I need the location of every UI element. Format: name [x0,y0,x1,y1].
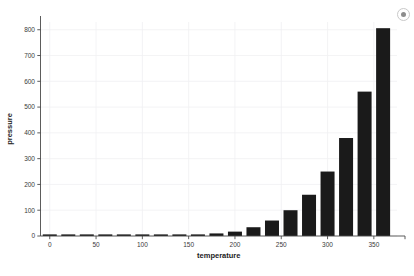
y-tick-label: 100 [24,207,35,214]
y-tick-label: 300 [24,155,35,162]
bar[interactable] [265,221,279,236]
x-tick-label: 100 [137,241,148,248]
x-tick-label: 150 [183,241,194,248]
x-tick-label: 250 [276,241,287,248]
bar[interactable] [302,195,316,236]
x-axis-title: temperature [197,251,240,260]
y-tick-label: 600 [24,78,35,85]
y-tick-labels-group: 0100200300400500600700800 [24,26,35,239]
bar[interactable] [228,232,242,236]
record-dot-icon[interactable] [397,8,410,21]
y-tick-label: 400 [24,129,35,136]
y-tick-label: 0 [31,232,35,239]
x-tick-label: 0 [48,241,52,248]
x-tick-label: 50 [92,241,100,248]
bar-chart-svg[interactable]: 050100150200250300350 010020030040050060… [0,0,414,276]
bars-group[interactable] [43,28,390,236]
bar[interactable] [358,92,372,236]
bar[interactable] [339,138,353,236]
y-tick-label: 700 [24,52,35,59]
x-tick-labels-group: 050100150200250300350 [48,241,380,248]
y-axis-title: pressure [5,113,14,145]
x-tick-label: 350 [368,241,379,248]
bar[interactable] [376,28,390,236]
record-dot-inner [401,12,406,17]
y-tick-label: 200 [24,181,35,188]
x-tick-label: 200 [230,241,241,248]
x-tick-label: 300 [322,241,333,248]
y-tick-label: 800 [24,26,35,33]
y-tick-label: 500 [24,103,35,110]
bar[interactable] [321,172,335,236]
bar[interactable] [246,227,260,236]
chart-container: 050100150200250300350 010020030040050060… [0,0,414,276]
bar[interactable] [284,210,298,236]
